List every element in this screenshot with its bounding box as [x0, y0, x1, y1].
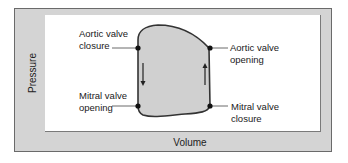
label-line2: opening: [79, 102, 127, 114]
y-axis-label: Pressure: [27, 53, 38, 93]
point-mitral-closure: [207, 103, 212, 108]
point-aortic-closure: [135, 45, 140, 50]
label-aortic-valve-opening: Aortic valve opening: [230, 42, 279, 66]
label-line2: closure: [79, 40, 128, 52]
pv-loop-path: [138, 25, 210, 117]
point-aortic-opening: [207, 45, 212, 50]
label-line1: Mitral valve: [231, 101, 279, 113]
label-line1: Aortic valve: [230, 42, 279, 54]
x-axis-label: Volume: [173, 137, 206, 148]
label-line1: Aortic valve: [79, 28, 128, 40]
point-mitral-opening: [135, 103, 140, 108]
label-line2: closure: [231, 113, 279, 125]
pv-loop-figure: Aortic valve closure Aortic valve openin…: [0, 0, 348, 163]
label-mitral-valve-closure: Mitral valve closure: [231, 101, 279, 125]
label-aortic-valve-closure: Aortic valve closure: [79, 28, 128, 52]
label-mitral-valve-opening: Mitral valve opening: [79, 90, 127, 114]
label-line1: Mitral valve: [79, 90, 127, 102]
label-line2: opening: [230, 54, 279, 66]
